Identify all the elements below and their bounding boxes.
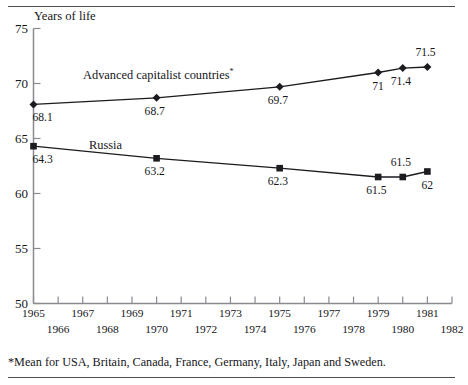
data-point-value-label: 71.4 xyxy=(391,76,411,88)
data-point-marker-square xyxy=(30,143,37,150)
chart-footnote: *Mean for USA, Britain, Canada, France, … xyxy=(8,356,386,368)
x-axis-tick-label: 1965 xyxy=(17,308,51,319)
data-point-value-label: 61.5 xyxy=(391,157,411,169)
y-axis-tick-label: 70 xyxy=(2,77,28,90)
y-axis-tick-label: 60 xyxy=(2,187,28,200)
data-point-marker-square xyxy=(276,165,283,172)
x-axis-tick-label: 1980 xyxy=(386,324,420,335)
data-point-value-label: 61.5 xyxy=(366,185,386,197)
data-point-marker-diamond xyxy=(153,94,161,102)
x-axis-tick-label: 1975 xyxy=(263,308,297,319)
x-axis-tick-label: 1978 xyxy=(337,324,371,335)
x-axis-tick-label: 1973 xyxy=(213,308,247,319)
x-axis-tick-label: 1977 xyxy=(312,308,346,319)
x-axis-tick-label: 1967 xyxy=(66,308,100,319)
data-point-marker-square xyxy=(153,155,160,162)
data-point-marker-diamond xyxy=(30,100,38,108)
x-axis-tick-label: 1981 xyxy=(410,308,444,319)
data-point-marker-square xyxy=(375,174,382,181)
data-point-marker-diamond xyxy=(423,63,431,71)
series-label-advanced-capitalist-countries: Advanced capitalist countries* xyxy=(83,68,234,82)
data-point-value-label: 62.3 xyxy=(268,176,288,188)
x-axis-tick-label: 1974 xyxy=(238,324,272,335)
data-point-value-label: 62 xyxy=(421,180,433,192)
x-axis-tick-label: 1982 xyxy=(435,324,468,335)
y-axis-tick-label: 55 xyxy=(2,242,28,255)
data-point-marker-diamond xyxy=(276,83,284,91)
y-axis-tick-label: 75 xyxy=(2,22,28,35)
y-axis-title: Years of life xyxy=(34,10,96,23)
x-axis-tick-label: 1976 xyxy=(287,324,321,335)
x-axis-tick-label: 1970 xyxy=(140,324,174,335)
x-axis-tick-label: 1972 xyxy=(189,324,223,335)
data-point-value-label: 63.2 xyxy=(145,166,165,178)
data-point-value-label: 71.5 xyxy=(415,47,435,59)
x-axis-tick-label: 1979 xyxy=(361,308,395,319)
x-axis-tick-label: 1968 xyxy=(90,324,124,335)
data-point-value-label: 71 xyxy=(372,81,384,93)
data-point-value-label: 68.1 xyxy=(33,112,53,124)
footnote-marker: * xyxy=(230,67,234,76)
data-point-value-label: 64.3 xyxy=(33,154,53,166)
x-axis-tick-label: 1966 xyxy=(41,324,75,335)
data-point-marker-square xyxy=(424,168,431,175)
x-axis-tick-label: 1971 xyxy=(164,308,198,319)
data-point-value-label: 69.7 xyxy=(268,95,288,107)
data-point-marker-square xyxy=(399,174,406,181)
y-axis-tick-label: 65 xyxy=(2,132,28,145)
data-point-marker-diamond xyxy=(399,64,407,72)
x-axis-tick-label: 1969 xyxy=(115,308,149,319)
series-label-russia: Russia xyxy=(89,139,122,151)
data-point-value-label: 68.7 xyxy=(145,106,165,118)
data-point-marker-diamond xyxy=(374,69,382,77)
